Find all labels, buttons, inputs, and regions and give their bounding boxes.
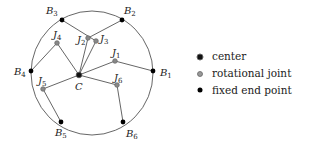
nodes <box>29 18 156 125</box>
label-J5: J5 <box>36 75 46 88</box>
legend-label: center <box>212 50 247 62</box>
label-B6: B6 <box>125 128 138 141</box>
label-J4: J4 <box>51 29 62 42</box>
link-C-J6 <box>79 75 117 85</box>
link-J1-B1 <box>115 61 153 71</box>
label-B4: B4 <box>13 66 26 79</box>
link-C-J4 <box>57 43 79 75</box>
label-J3: J3 <box>98 33 108 46</box>
mechanism-diagram: J1J2J3J4J5J6B1B2B3B4B5B6C center rotatio… <box>0 0 310 142</box>
label-J1: J1 <box>110 47 120 60</box>
link-C-J1 <box>79 61 115 75</box>
fixed-end-point-icon <box>151 69 156 74</box>
center-icon <box>76 72 82 78</box>
rotational-joint-icon <box>94 39 99 44</box>
legend: center rotational joint fixed end point <box>197 50 292 96</box>
link-C-J5 <box>43 75 79 89</box>
label-J2: J2 <box>75 34 85 47</box>
legend-item-rotational-joint: rotational joint <box>198 67 293 79</box>
fixed-end-point-icon <box>60 18 65 23</box>
link-J4-B4 <box>31 43 57 71</box>
node-labels: J1J2J3J4J5J6B1B2B3B4B5B6C <box>13 5 172 141</box>
fixed-end-point-icon <box>29 69 34 74</box>
link-J6-B6 <box>117 85 123 122</box>
label-B3: B3 <box>45 5 58 18</box>
fixed-end-point-icon <box>121 120 126 125</box>
legend-item-fixed-end-point: fixed end point <box>198 84 293 96</box>
rotational-joint-icon <box>86 36 91 41</box>
fixed-end-point-marker-icon <box>198 88 203 93</box>
legend-item-center: center <box>197 50 247 62</box>
label-C: C <box>75 81 83 92</box>
link-J2-B2 <box>88 20 122 38</box>
workspace-boundary <box>31 11 153 135</box>
fixed-end-point-icon <box>120 18 125 23</box>
center-marker-icon <box>197 54 203 60</box>
fixed-end-point-icon <box>59 120 64 125</box>
rotational-joint-marker-icon <box>198 72 203 77</box>
label-J6: J6 <box>112 72 123 85</box>
links <box>31 20 153 122</box>
label-B2: B2 <box>123 5 136 18</box>
link-J5-B5 <box>43 89 61 122</box>
label-B1: B1 <box>159 67 172 80</box>
legend-label: rotational joint <box>212 67 292 79</box>
workspace-circle <box>31 11 153 135</box>
legend-label: fixed end point <box>212 84 292 96</box>
